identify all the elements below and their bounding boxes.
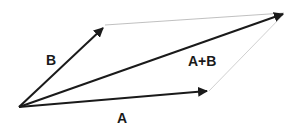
- label-b: B: [46, 52, 56, 68]
- label-a: A: [117, 110, 127, 126]
- label-sum: A+B: [188, 53, 216, 69]
- vector-a-arrow: [19, 91, 207, 107]
- vector-b-arrow: [19, 28, 103, 107]
- vector-sum-arrow: [19, 14, 283, 107]
- guide-line-a-to-sum: [209, 14, 284, 91]
- vector-addition-diagram: B A A+B: [0, 0, 303, 127]
